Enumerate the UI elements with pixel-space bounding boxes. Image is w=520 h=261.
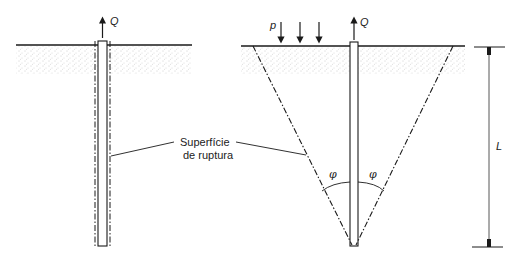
left-load-label: Q (110, 15, 119, 27)
right-panel: φ φ Q p (241, 16, 465, 246)
callout-leader-right (236, 142, 306, 155)
length-dimension: L (472, 47, 505, 247)
callout-leader-left (111, 142, 174, 156)
callout-line-1: Superfície (180, 136, 230, 148)
rupture-surface-callout: Superfície de ruptura (111, 136, 306, 161)
right-pile (350, 42, 358, 246)
dimension-top-cap (487, 47, 491, 55)
angle-arc-right (358, 182, 384, 191)
pile-uplift-diagram: Q φ φ Q p Superfície de ruptura L (0, 0, 520, 261)
dimension-bottom-cap (487, 239, 491, 247)
right-load-label: Q (360, 16, 369, 28)
angle-label-right: φ (369, 168, 377, 181)
right-rupture-cone-right (356, 46, 453, 245)
left-panel: Q (16, 15, 192, 246)
left-pile (98, 41, 107, 246)
callout-line-2: de ruptura (183, 149, 234, 161)
right-rupture-cone-left (253, 46, 352, 245)
angle-arc-left (322, 182, 350, 191)
dimension-label: L (496, 140, 502, 152)
surcharge-label: p (269, 19, 276, 31)
angle-label-left: φ (329, 168, 337, 181)
